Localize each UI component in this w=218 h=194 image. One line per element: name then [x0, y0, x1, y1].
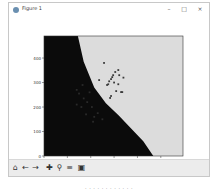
data-point: [76, 104, 78, 106]
data-point: [91, 106, 93, 108]
data-point: [98, 79, 100, 81]
data-point: [111, 76, 113, 78]
y-tick-label: 200: [33, 105, 41, 110]
data-point: [78, 93, 80, 95]
data-point: [102, 118, 104, 120]
window-title: Figure 1: [22, 5, 42, 11]
data-point: [108, 80, 110, 82]
data-point: [112, 74, 114, 76]
data-point: [114, 71, 116, 73]
data-point: [86, 101, 88, 103]
close-button[interactable]: ×: [195, 5, 205, 12]
data-point: [115, 90, 117, 92]
title-bar[interactable]: Figure 1 – □ ×: [9, 3, 209, 17]
data-point: [109, 97, 111, 99]
data-point: [92, 121, 94, 123]
data-point: [76, 89, 78, 91]
home-icon[interactable]: ⌂: [11, 163, 20, 172]
data-point: [80, 106, 82, 108]
pan-icon[interactable]: ✚: [45, 163, 54, 172]
y-tick-label: 300: [33, 80, 41, 85]
data-point: [110, 78, 112, 80]
maximize-button[interactable]: □: [179, 5, 189, 12]
back-icon[interactable]: ←: [21, 163, 30, 172]
data-point: [85, 113, 87, 115]
data-point: [117, 83, 119, 85]
navigation-toolbar: ⌂ ← → ✚ ⚲ ≡ ▣: [9, 159, 209, 176]
configure-subplots-icon[interactable]: ≡: [65, 163, 74, 172]
data-point: [118, 74, 120, 76]
data-point: [83, 98, 85, 100]
minimize-button[interactable]: –: [164, 5, 174, 12]
data-point: [82, 84, 84, 86]
data-point: [89, 91, 91, 93]
plot-canvas[interactable]: 01002003004005000100200300400: [9, 17, 209, 162]
zoom-icon[interactable]: ⚲: [55, 163, 64, 172]
data-point: [93, 116, 95, 118]
data-point: [103, 62, 105, 64]
y-tick-label: 0: [38, 154, 41, 159]
data-point: [106, 84, 108, 86]
data-point: [110, 95, 112, 97]
data-point: [123, 77, 125, 79]
figure-caption: · · · · · · · · · · · ·: [0, 185, 218, 191]
y-tick-label: 400: [33, 56, 41, 61]
data-point: [113, 82, 115, 84]
scatter-plot: 01002003004005000100200300400: [9, 17, 209, 162]
data-point: [97, 112, 99, 114]
save-icon[interactable]: ▣: [77, 163, 86, 172]
data-point: [117, 69, 119, 71]
y-tick-label: 100: [33, 129, 41, 134]
figure-window: Figure 1 – □ × 0100200300400500010020030…: [8, 2, 210, 177]
data-point: [121, 91, 123, 93]
figure-icon: [13, 7, 19, 13]
forward-icon[interactable]: →: [31, 163, 40, 172]
